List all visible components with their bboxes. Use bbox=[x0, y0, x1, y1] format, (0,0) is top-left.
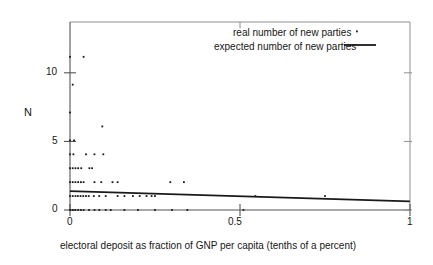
chart-canvas bbox=[0, 0, 433, 265]
scatter-point bbox=[69, 56, 71, 58]
scatter-point bbox=[69, 167, 71, 169]
legend-label-expected: expected number of new parties bbox=[214, 41, 356, 52]
scatter-point bbox=[80, 195, 82, 197]
scatter-point bbox=[100, 181, 102, 183]
scatter-point bbox=[94, 153, 96, 155]
scatter-point bbox=[73, 139, 75, 141]
scatter-point bbox=[80, 167, 82, 169]
scatter-point bbox=[124, 195, 126, 197]
scatter-point bbox=[112, 181, 114, 183]
scatter-points bbox=[69, 56, 326, 211]
scatter-point bbox=[88, 195, 90, 197]
scatter-point bbox=[137, 209, 139, 211]
scatter-point bbox=[101, 126, 103, 128]
scatter-point bbox=[154, 209, 156, 211]
scatter-point bbox=[98, 195, 100, 197]
scatter-point bbox=[72, 84, 74, 86]
scatter-point bbox=[77, 209, 79, 211]
scatter-point bbox=[183, 181, 185, 183]
chart-figure: N electoral deposit as fraction of GNP p… bbox=[0, 0, 433, 265]
scatter-point bbox=[139, 195, 141, 197]
scatter-point bbox=[132, 195, 134, 197]
scatter-point bbox=[88, 167, 90, 169]
scatter-point bbox=[151, 195, 153, 197]
y-axis-label: N bbox=[24, 106, 32, 118]
scatter-point bbox=[69, 139, 71, 141]
scatter-point bbox=[69, 195, 71, 197]
scatter-point bbox=[72, 209, 74, 211]
scatter-point bbox=[124, 209, 126, 211]
scatter-point bbox=[117, 181, 119, 183]
x-tick-label-0point5: 0.5 bbox=[228, 216, 242, 227]
scatter-point bbox=[105, 195, 107, 197]
scatter-point bbox=[77, 167, 79, 169]
scatter-point bbox=[110, 209, 112, 211]
scatter-point bbox=[75, 209, 77, 211]
scatter-point bbox=[77, 195, 79, 197]
legend-label-real: real number of new parties bbox=[233, 27, 351, 38]
legend-point-marker bbox=[356, 31, 358, 33]
y-tick-label-5: 5 bbox=[52, 135, 58, 146]
scatter-point bbox=[69, 112, 71, 114]
scatter-point bbox=[88, 209, 90, 211]
scatter-point bbox=[324, 195, 326, 197]
scatter-point bbox=[69, 181, 71, 183]
scatter-point bbox=[169, 181, 171, 183]
scatter-point bbox=[94, 181, 96, 183]
regression-line bbox=[70, 191, 410, 201]
y-tick-label-10: 10 bbox=[46, 66, 57, 77]
scatter-point bbox=[243, 209, 245, 211]
y-tick-label-0: 0 bbox=[52, 203, 58, 214]
scatter-point bbox=[94, 209, 96, 211]
scatter-point bbox=[83, 181, 85, 183]
scatter-point bbox=[72, 195, 74, 197]
scatter-point bbox=[146, 195, 148, 197]
scatter-point bbox=[91, 167, 93, 169]
scatter-point bbox=[82, 195, 84, 197]
scatter-point bbox=[105, 209, 107, 211]
scatter-point bbox=[69, 153, 71, 155]
scatter-point bbox=[186, 209, 188, 211]
scatter-point bbox=[98, 209, 100, 211]
scatter-point bbox=[83, 56, 85, 58]
scatter-point bbox=[77, 181, 79, 183]
scatter-point bbox=[85, 153, 87, 155]
scatter-point bbox=[75, 167, 77, 169]
scatter-point bbox=[75, 181, 77, 183]
x-tick-label-1: 1 bbox=[407, 216, 413, 227]
scatter-point bbox=[72, 181, 74, 183]
scatter-point bbox=[171, 209, 173, 211]
scatter-point bbox=[80, 209, 82, 211]
scatter-point bbox=[72, 167, 74, 169]
scatter-point bbox=[85, 195, 87, 197]
scatter-point bbox=[69, 209, 71, 211]
scatter-point bbox=[102, 153, 104, 155]
scatter-point bbox=[75, 195, 77, 197]
scatter-point bbox=[117, 195, 119, 197]
scatter-point bbox=[73, 153, 75, 155]
scatter-point bbox=[93, 195, 95, 197]
x-axis-caption: electoral deposit as fraction of GNP per… bbox=[60, 240, 356, 251]
scatter-point bbox=[80, 181, 82, 183]
x-tick-label-0: 0 bbox=[67, 216, 73, 227]
scatter-point bbox=[83, 209, 85, 211]
scatter-point bbox=[154, 195, 156, 197]
